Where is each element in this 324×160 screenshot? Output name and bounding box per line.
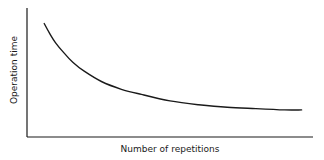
series-line-learning-curve <box>44 24 301 110</box>
x-axis-label: Number of repetitions <box>121 144 220 154</box>
learning-curve-chart: Number of repetitions Operation time <box>0 0 324 160</box>
y-axis-label: Operation time <box>9 36 19 104</box>
